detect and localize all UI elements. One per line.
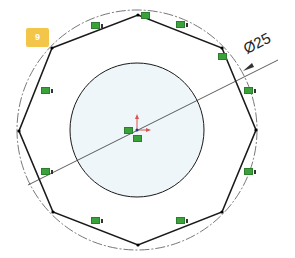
origin-fixed-relation-icon[interactable] [124,127,133,134]
dimension-arrow-icon [243,63,254,71]
equal-relation-icon[interactable] [41,168,50,175]
equal-relation-icon[interactable] [41,87,50,94]
origin-coincident-relation-icon[interactable] [133,135,142,142]
sketch-number-badge[interactable]: 9 [26,28,49,47]
equal-relation-icon[interactable] [176,21,185,28]
equal-relation-icon[interactable] [91,22,100,29]
coincident-relation-icon[interactable] [218,53,227,60]
equal-relation-icon[interactable] [91,217,100,224]
equal-relation-icon[interactable] [176,217,185,224]
equal-relation-icon[interactable] [244,87,253,94]
coincident-relation-icon[interactable] [141,12,150,19]
equal-relation-icon[interactable] [244,168,253,175]
